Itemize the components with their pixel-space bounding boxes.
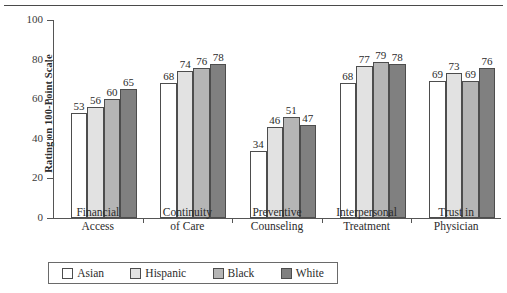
bar-white-1[interactable] — [120, 89, 137, 218]
bar-white-4[interactable] — [389, 64, 406, 218]
bar-value-label: 68 — [342, 70, 353, 82]
bar-hispanic-2[interactable] — [177, 71, 194, 218]
category-label: PreventiveCounseling — [232, 205, 322, 233]
bar-value-label: 78 — [392, 51, 403, 63]
category-label-line: Interpersonal — [322, 205, 412, 219]
bar-value-label: 56 — [90, 94, 101, 106]
bar-slot: 69 — [462, 20, 479, 218]
bar-group: 68777978 — [340, 20, 406, 218]
y-tick-80: 80 — [47, 60, 53, 61]
category-label-line: Continuity — [143, 205, 233, 219]
bar-asian-2[interactable] — [160, 83, 177, 218]
bar-value-label: 65 — [123, 76, 134, 88]
category-label-line: Trust in — [411, 205, 501, 219]
legend-label: Asian — [77, 267, 104, 279]
category-label-line: Counseling — [232, 219, 322, 233]
bar-slot: 53 — [71, 20, 88, 218]
legend-item-black[interactable]: Black — [213, 267, 255, 279]
legend-label: Black — [228, 267, 255, 279]
bar-group: 68747678 — [160, 20, 226, 218]
bar-slot: 79 — [373, 20, 390, 218]
y-tick-100: 100 — [47, 20, 53, 21]
category-label-line: Preventive — [232, 205, 322, 219]
bar-slot: 73 — [446, 20, 463, 218]
legend-label: White — [296, 267, 324, 279]
bar-value-label: 74 — [180, 58, 191, 70]
bar-slot: 60 — [104, 20, 121, 218]
legend-swatch-icon — [62, 268, 73, 279]
bar-value-label: 77 — [359, 53, 370, 65]
bar-black-5[interactable] — [462, 81, 479, 218]
bar-value-label: 69 — [432, 68, 443, 80]
bar-group-bars: 53566065 — [71, 20, 137, 218]
bar-white-5[interactable] — [479, 68, 496, 218]
bar-group-bars: 68747678 — [160, 20, 226, 218]
bar-value-label: 60 — [107, 86, 118, 98]
category-label-line: Access — [53, 219, 143, 233]
bar-black-4[interactable] — [373, 62, 390, 218]
bar-group: 69736976 — [429, 20, 495, 218]
bar-slot: 78 — [210, 20, 227, 218]
bar-slot: 65 — [120, 20, 137, 218]
category-label-line: of Care — [143, 219, 233, 233]
bar-value-label: 76 — [481, 55, 492, 67]
legend-item-asian[interactable]: Asian — [62, 267, 104, 279]
bar-value-label: 68 — [163, 70, 174, 82]
bar-hispanic-4[interactable] — [356, 66, 373, 218]
bar-value-label: 79 — [375, 49, 386, 61]
bar-slot: 68 — [160, 20, 177, 218]
y-tick-label-0: 0 — [38, 211, 44, 223]
bar-slot: 34 — [250, 20, 267, 218]
bar-slot: 47 — [300, 20, 317, 218]
bar-slot: 69 — [429, 20, 446, 218]
bar-white-2[interactable] — [210, 64, 227, 218]
y-tick-label-80: 80 — [32, 53, 43, 65]
bar-value-label: 78 — [213, 51, 224, 63]
legend-swatch-icon — [130, 268, 141, 279]
bar-black-2[interactable] — [193, 68, 210, 218]
chart-legend: AsianHispanicBlackWhite — [48, 262, 338, 284]
bar-black-1[interactable] — [104, 99, 121, 218]
bar-group-bars: 68777978 — [340, 20, 406, 218]
legend-item-white[interactable]: White — [281, 267, 324, 279]
bar-slot: 51 — [283, 20, 300, 218]
category-label: Continuityof Care — [143, 205, 233, 233]
legend-label: Hispanic — [145, 267, 186, 279]
bar-group: 34465147 — [250, 20, 316, 218]
y-tick-60: 60 — [47, 99, 53, 100]
bar-value-label: 76 — [196, 55, 207, 67]
category-label: Trust inPhysician — [411, 205, 501, 233]
legend-item-hispanic[interactable]: Hispanic — [130, 267, 186, 279]
bar-slot: 68 — [340, 20, 357, 218]
y-tick-label-60: 60 — [32, 92, 43, 104]
bar-slot: 78 — [389, 20, 406, 218]
bar-value-label: 34 — [253, 138, 264, 150]
y-tick-label-20: 20 — [32, 171, 43, 183]
bar-value-label: 46 — [269, 114, 280, 126]
bar-black-3[interactable] — [283, 117, 300, 218]
legend-swatch-icon — [213, 268, 224, 279]
y-tick-label-40: 40 — [32, 132, 43, 144]
category-label: InterpersonalTreatment — [322, 205, 412, 233]
bar-value-label: 53 — [74, 100, 85, 112]
bar-slot: 77 — [356, 20, 373, 218]
bar-value-label: 69 — [465, 68, 476, 80]
category-label-line: Financial — [53, 205, 143, 219]
y-tick-20: 20 — [47, 178, 53, 179]
bar-value-label: 47 — [302, 112, 313, 124]
bar-asian-4[interactable] — [340, 83, 357, 218]
y-tick-40: 40 — [47, 139, 53, 140]
bar-asian-1[interactable] — [71, 113, 88, 218]
bar-hispanic-1[interactable] — [87, 107, 104, 218]
bar-hispanic-5[interactable] — [446, 73, 463, 218]
bar-value-label: 73 — [448, 60, 459, 72]
bar-group-bars: 69736976 — [429, 20, 495, 218]
bar-asian-5[interactable] — [429, 81, 446, 218]
bar-slot: 56 — [87, 20, 104, 218]
bar-group-bars: 34465147 — [250, 20, 316, 218]
bar-slot: 46 — [267, 20, 284, 218]
plot-area: 020406080100 535660656874767834465147687… — [53, 20, 501, 218]
bar-chart-figure: Rating on 100-Point Scale 020406080100 5… — [0, 0, 507, 293]
y-axis-line — [53, 20, 54, 218]
bar-value-label: 51 — [286, 104, 297, 116]
